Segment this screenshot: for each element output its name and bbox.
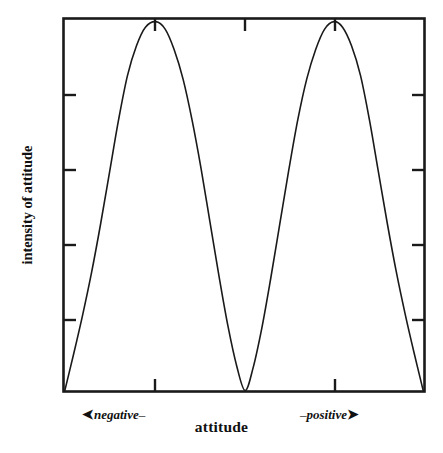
plot-frame-box (64, 19, 425, 392)
plot-frame (64, 19, 425, 392)
x-axis-ticks-bottom (155, 379, 335, 392)
y-axis-ticks-left (64, 95, 77, 320)
x-axis-positive-pole: –positive➤ (300, 406, 359, 423)
right-arrow-icon: ➤ (347, 407, 359, 422)
x-axis-negative-pole-label: negative (94, 407, 139, 422)
x-axis-negative-pole: ➤negative– (82, 406, 145, 423)
x-axis-ticks-top (155, 19, 335, 32)
x-axis-title: attitude (0, 418, 443, 436)
x-axis-negative-pole-dash: – (139, 407, 146, 422)
y-axis-ticks-right (412, 95, 425, 320)
left-arrow-icon: ➤ (82, 406, 94, 423)
chart-plot-area (0, 0, 443, 453)
attitude-intensity-figure: intensity of attitude attitude ➤negative… (0, 0, 443, 453)
data-curve-intensity-of-attitude (65, 22, 423, 391)
y-axis-title: intensity of attitude (14, 18, 40, 392)
x-axis-positive-pole-label: positive (307, 407, 347, 422)
